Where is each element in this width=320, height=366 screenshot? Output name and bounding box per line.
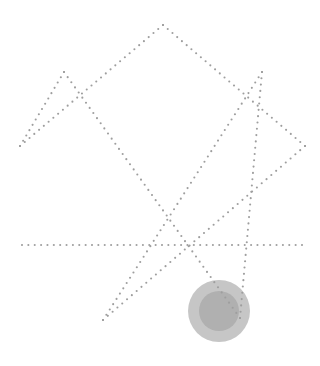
outline-dot xyxy=(32,124,34,126)
outline-dot xyxy=(207,155,209,157)
outline-dot xyxy=(174,244,176,246)
outline-dot xyxy=(280,166,282,168)
outline-dot xyxy=(276,244,278,246)
outline-dot xyxy=(81,93,83,95)
outline-dot xyxy=(269,244,271,246)
outline-dot xyxy=(114,64,116,66)
outline-dot xyxy=(245,248,247,250)
outline-dot xyxy=(205,60,207,62)
outline-dot xyxy=(25,134,27,136)
outline-dot xyxy=(33,133,35,135)
outline-dot xyxy=(27,244,29,246)
outline-dot xyxy=(254,147,256,149)
outline-dot xyxy=(24,141,26,143)
outline-dot xyxy=(70,81,72,83)
outline-dot xyxy=(28,137,30,139)
outline-dot xyxy=(203,232,205,234)
outline-dot xyxy=(255,140,257,142)
star-dot-layer xyxy=(19,24,306,321)
outline-dot xyxy=(228,80,230,82)
outline-dot xyxy=(122,287,124,289)
outline-dot xyxy=(47,97,49,99)
outline-dot xyxy=(81,97,83,99)
outline-dot xyxy=(250,197,252,199)
outline-dot xyxy=(228,302,230,304)
outline-dot xyxy=(158,204,160,206)
outline-dot xyxy=(256,128,258,130)
outline-dot xyxy=(213,224,215,226)
outline-dot xyxy=(184,249,186,251)
outline-dot xyxy=(241,292,243,294)
outline-dot xyxy=(210,150,212,152)
outline-dot xyxy=(176,203,178,205)
outline-dot xyxy=(280,125,282,127)
outline-dot xyxy=(38,113,40,115)
outline-dot xyxy=(285,129,287,131)
outline-dot xyxy=(261,109,263,111)
outline-dot xyxy=(171,32,173,34)
outline-dot xyxy=(254,153,256,155)
outline-dot xyxy=(97,244,99,246)
outline-dot xyxy=(195,52,197,54)
outline-dot xyxy=(96,117,98,119)
outline-dot xyxy=(258,76,260,78)
outline-dot xyxy=(227,211,229,213)
outline-dot xyxy=(59,244,61,246)
outline-dot xyxy=(48,121,50,123)
outline-dot xyxy=(209,64,211,66)
outline-dot xyxy=(180,235,182,237)
outline-dot xyxy=(146,250,148,252)
outline-dot xyxy=(208,228,210,230)
outline-dot xyxy=(103,127,105,129)
outline-dot xyxy=(200,56,202,58)
outline-dot xyxy=(258,102,260,104)
outline-dot xyxy=(132,271,134,273)
outline-dot xyxy=(143,256,145,258)
outline-dot xyxy=(299,149,301,151)
outline-dot xyxy=(198,236,200,238)
outline-dot xyxy=(148,36,150,38)
outline-dot xyxy=(237,244,239,246)
outline-dot xyxy=(90,84,92,86)
outline-dot xyxy=(245,254,247,256)
outline-dot xyxy=(136,173,138,175)
outline-dot xyxy=(85,102,87,104)
outline-dot xyxy=(169,220,171,222)
outline-dot xyxy=(151,194,153,196)
outline-dot xyxy=(261,182,263,184)
outline-dot xyxy=(186,44,188,46)
outline-dot xyxy=(119,293,121,295)
outline-dot xyxy=(50,92,52,94)
outline-dot xyxy=(257,115,259,117)
outline-dot xyxy=(92,112,94,114)
outline-dot xyxy=(160,269,162,271)
outline-dot xyxy=(224,296,226,298)
outline-dot xyxy=(225,244,227,246)
outline-dot xyxy=(57,113,59,115)
outline-dot xyxy=(214,68,216,70)
outline-dot xyxy=(190,182,192,184)
outline-dot xyxy=(112,311,114,313)
outline-dot xyxy=(162,209,164,211)
outline-dot xyxy=(116,307,118,309)
outline-dot xyxy=(249,210,251,212)
outline-dot xyxy=(184,240,186,242)
outline-dot xyxy=(304,145,306,147)
outline-dot xyxy=(145,282,147,284)
outline-dot xyxy=(266,113,268,115)
outline-dot xyxy=(276,121,278,123)
outline-dot xyxy=(243,266,245,268)
outline-dot xyxy=(129,163,131,165)
outline-dot xyxy=(181,40,183,42)
outline-dot xyxy=(256,121,258,123)
outline-dot xyxy=(116,244,118,246)
outline-dot xyxy=(290,133,292,135)
outline-dot xyxy=(72,244,74,246)
outline-dot xyxy=(46,244,48,246)
outline-dot xyxy=(122,153,124,155)
outline-dot xyxy=(148,244,150,246)
outline-dot xyxy=(191,250,193,252)
disc-inner-core xyxy=(199,291,239,331)
outline-dot xyxy=(110,244,112,246)
outline-dot xyxy=(21,244,23,246)
